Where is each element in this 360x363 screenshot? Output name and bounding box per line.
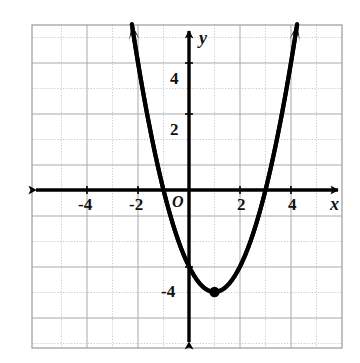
x-tick-label-neg2: -2: [129, 196, 143, 213]
y-tick-label-pos4: 4: [170, 70, 179, 87]
x-axis-label: x: [330, 195, 339, 213]
y-tick-label-pos2: 2: [170, 121, 179, 138]
x-tick-label-neg4: -4: [78, 196, 92, 213]
y-axis-label: y: [199, 29, 207, 47]
x-tick-label-pos2: 2: [237, 196, 246, 213]
origin-label: O: [172, 194, 184, 210]
coordinate-plane: [0, 0, 360, 363]
y-tick-label-neg4: -4: [161, 283, 175, 300]
x-tick-label-pos4: 4: [288, 196, 297, 213]
vertex-point-marker: [209, 287, 219, 297]
plot-area-background: [32, 25, 342, 348]
graph-figure: -4 -2 2 4 4 2 -4 O y x: [0, 0, 360, 363]
